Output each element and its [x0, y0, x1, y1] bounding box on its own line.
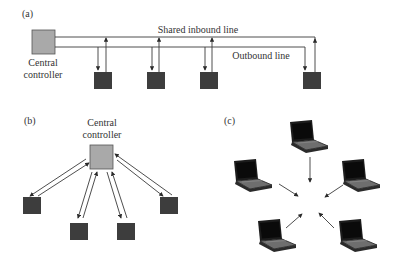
central-controller-label-2: controller [24, 69, 64, 80]
shared-inbound-line-label: Shared inbound line [158, 24, 239, 35]
terminal-node [160, 197, 178, 214]
network-topology-diagram: (a) Central controller Shared inbound li… [0, 0, 402, 263]
laptop-icon [339, 219, 377, 252]
panel-b-label: (b) [24, 115, 36, 127]
central-controller-box [32, 30, 55, 54]
terminal-node [200, 38, 218, 89]
arrow [319, 213, 334, 228]
panel-c-wireless-adhoc: (c) [224, 115, 380, 252]
shared-inbound-line [55, 37, 315, 40]
panel-a-label: (a) [22, 8, 33, 20]
arrow [286, 214, 302, 228]
central-controller-label-1: Central [87, 117, 117, 128]
terminal-node [117, 223, 135, 240]
panel-a-bus-topology: (a) Central controller Shared inbound li… [22, 8, 321, 89]
outbound-line-label: Outbound line [232, 50, 290, 61]
central-controller-box [90, 145, 113, 169]
central-controller-label-2: controller [83, 129, 123, 140]
arrow [325, 185, 343, 197]
terminal-node [23, 197, 41, 214]
laptop-icon [234, 159, 272, 192]
laptop-icon [342, 159, 380, 192]
terminal-node [94, 38, 112, 89]
terminal-node [303, 39, 321, 89]
terminal-node [147, 38, 165, 89]
laptop-icon [290, 120, 328, 153]
central-controller-label-1: Central [28, 57, 58, 68]
panel-b-star-topology: (b) Central controller [23, 115, 178, 240]
terminal-node [70, 223, 88, 240]
panel-c-label: (c) [224, 115, 235, 127]
arrow [279, 184, 298, 196]
